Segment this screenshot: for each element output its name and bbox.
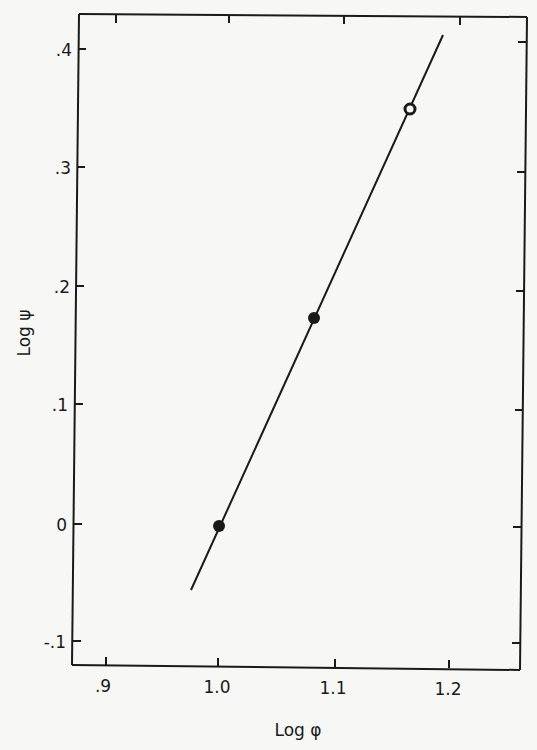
data-point-ring: [405, 104, 415, 114]
x-tick-label: 1.2: [434, 679, 461, 699]
data-points: [213, 104, 415, 532]
data-point-filled: [308, 312, 320, 324]
x-tick-labels: .9 1.0 1.1 1.2: [95, 676, 462, 699]
fit-line: [191, 35, 443, 590]
plot-frame: [72, 14, 527, 670]
y-tick-label: -.1: [44, 632, 66, 652]
y-tick-label: .1: [52, 395, 68, 415]
y-tick-label: .4: [56, 40, 72, 60]
top-border: [79, 14, 527, 17]
chart: .4 .3 .2 .1 0 -.1 .9 1.0 1.1 1.2 Log φ L…: [0, 0, 537, 750]
y-axis-label: Log ψ: [14, 310, 34, 357]
x-axis-label: Log φ: [275, 720, 322, 740]
x-tick-label: 1.1: [319, 678, 346, 698]
data-point-filled: [213, 520, 225, 532]
y-axis: [72, 14, 79, 665]
x-tick-label: 1.0: [203, 677, 230, 697]
y-tick-label: .3: [55, 158, 71, 178]
y-tick-labels: .4 .3 .2 .1 0 -.1: [44, 40, 72, 652]
right-border: [520, 17, 527, 670]
y-tick-label: 0: [56, 515, 67, 535]
y-tick-label: .2: [54, 277, 70, 297]
x-tick-label: .9: [95, 676, 111, 696]
x-axis: [72, 665, 520, 670]
